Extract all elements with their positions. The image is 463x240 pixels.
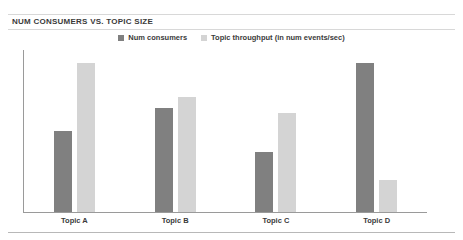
legend-swatch-icon — [201, 35, 207, 41]
title-divider-top — [8, 14, 455, 15]
bar-num-consumers[interactable] — [155, 108, 173, 212]
x-axis-line — [23, 212, 427, 213]
bar-group-topic-c — [226, 50, 327, 212]
legend-label: Num consumers — [128, 34, 187, 42]
x-axis-tick-labels: Topic A Topic B Topic C Topic D — [24, 216, 427, 225]
bar-num-consumers[interactable] — [356, 63, 374, 212]
legend-label: Topic throughput (in num events/sec) — [211, 34, 345, 42]
card-bottom-divider — [8, 232, 455, 233]
title-divider-bottom — [8, 29, 455, 30]
bar-groups — [24, 50, 427, 212]
bar-group-topic-b — [125, 50, 226, 212]
x-tick-label: Topic A — [24, 216, 125, 225]
chart-legend: Num consumers Topic throughput (in num e… — [0, 34, 463, 42]
bar-topic-throughput[interactable] — [379, 180, 397, 212]
legend-item[interactable]: Topic throughput (in num events/sec) — [201, 34, 345, 42]
bar-topic-throughput[interactable] — [178, 97, 196, 212]
x-tick-label: Topic D — [326, 216, 427, 225]
bar-num-consumers[interactable] — [255, 152, 273, 212]
chart-card: NUM CONSUMERS VS. TOPIC SIZE Num consume… — [0, 0, 463, 240]
bar-group-topic-a — [24, 50, 125, 212]
legend-swatch-icon — [118, 35, 124, 41]
bar-group-topic-d — [326, 50, 427, 212]
bar-topic-throughput[interactable] — [278, 113, 296, 212]
x-tick-label: Topic B — [125, 216, 226, 225]
bar-topic-throughput[interactable] — [77, 63, 95, 212]
plot-area — [23, 50, 427, 213]
bar-num-consumers[interactable] — [54, 131, 72, 212]
chart-title: NUM CONSUMERS VS. TOPIC SIZE — [12, 17, 153, 26]
x-tick-label: Topic C — [226, 216, 327, 225]
legend-item[interactable]: Num consumers — [118, 34, 187, 42]
